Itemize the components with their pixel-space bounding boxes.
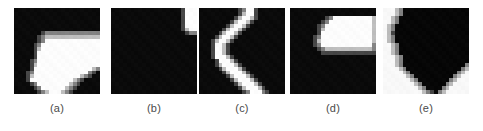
image-panel-a	[14, 8, 100, 94]
panel-a-pixels	[14, 8, 100, 94]
panel-d-pixels	[290, 8, 376, 94]
panel-caption-b: (b)	[111, 101, 197, 115]
panel-c-pixels	[199, 8, 285, 94]
panel-e-pixels	[383, 8, 469, 94]
figure-container: (a) (b) (c) (d) (e)	[0, 0, 483, 131]
panel-caption-e: (e)	[383, 101, 469, 115]
image-panel-e	[383, 8, 469, 94]
image-panel-d	[290, 8, 376, 94]
panel-caption-a: (a)	[14, 101, 100, 115]
panel-b-pixels	[111, 8, 197, 94]
panel-caption-c: (c)	[199, 101, 285, 115]
image-panel-c	[199, 8, 285, 94]
panel-caption-d: (d)	[290, 101, 376, 115]
image-panel-b	[111, 8, 197, 94]
